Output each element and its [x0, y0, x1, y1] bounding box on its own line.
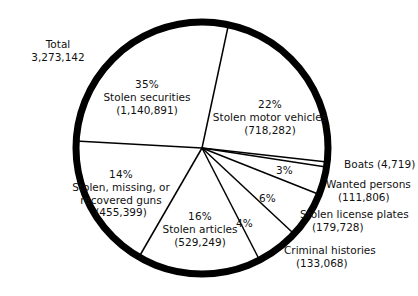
- slice-name: Boats (4,719): [344, 158, 418, 171]
- slice-value: (718,282): [196, 124, 344, 137]
- slice-percent: 35%: [72, 78, 222, 91]
- slice-percent-criminal-histories: 4%: [236, 217, 253, 229]
- slice-value: (179,728): [300, 221, 418, 234]
- slice-label-wanted-persons: Wanted persons (111,806): [326, 178, 418, 204]
- slice-percent-wanted-persons: 3%: [276, 164, 293, 176]
- total-annotation: Total 3,273,142: [8, 38, 108, 64]
- slice-name: Stolen motor vehicles: [196, 111, 344, 124]
- slice-name-line2: recovered guns: [46, 194, 196, 207]
- slice-percent: 22%: [196, 98, 344, 111]
- slice-value: (111,806): [326, 191, 418, 204]
- slice-label-stolen-motor-vehicles: 22% Stolen motor vehicles (718,282): [196, 98, 344, 136]
- slice-percent: 14%: [46, 168, 196, 181]
- total-value: 3,273,142: [8, 51, 108, 64]
- slice-value: (529,249): [140, 236, 260, 249]
- slice-label-stolen-guns: 14% Stolen, missing, or recovered guns (…: [46, 168, 196, 219]
- slice-name: Stolen license plates: [300, 208, 418, 221]
- slice-value: (455,399): [46, 206, 196, 219]
- slice-name: Wanted persons: [326, 178, 418, 191]
- pie-chart: Total 3,273,142 35% Stolen securities (1…: [0, 0, 418, 296]
- total-label: Total: [8, 38, 108, 51]
- slice-label-boats: Boats (4,719): [344, 158, 418, 171]
- slice-label-criminal-histories: Criminal histories (133,068): [284, 244, 396, 270]
- slice-value: (133,068): [284, 257, 396, 270]
- slice-percent-stolen-license-plates: 6%: [259, 192, 276, 204]
- slice-name-line1: Stolen, missing, or: [46, 181, 196, 194]
- slice-label-stolen-license-plates: Stolen license plates (179,728): [300, 208, 418, 234]
- slice-name: Criminal histories: [284, 244, 396, 257]
